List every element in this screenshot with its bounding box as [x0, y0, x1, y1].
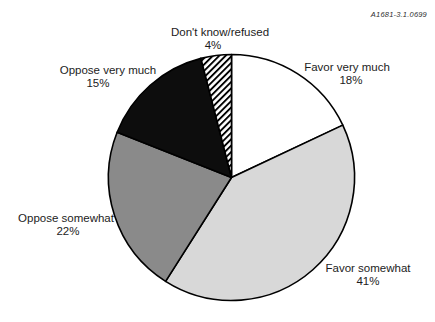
label-dont-know-refused: Don't know/refused 4%: [171, 26, 269, 52]
label-favor-very-much: Favor very much 18%: [304, 61, 390, 87]
label-oppose-very-much: Oppose very much 15%: [60, 64, 157, 90]
pie-slices-group: [109, 55, 355, 301]
slice-label-text: Favor very much: [304, 61, 390, 74]
pie-chart-figure: A1681-3.1.0699 Don't know/refused 4% Fav…: [0, 0, 435, 322]
label-favor-somewhat: Favor somewhat 41%: [325, 262, 410, 288]
slice-label-text: Oppose somewhat: [18, 212, 114, 225]
label-oppose-somewhat: Oppose somewhat 22%: [18, 212, 114, 238]
slice-label-pct: 41%: [325, 275, 410, 288]
slice-label-text: Favor somewhat: [325, 262, 410, 275]
slice-label-pct: 18%: [308, 74, 394, 87]
slice-label-pct: 22%: [20, 225, 116, 238]
slice-label-pct: 15%: [50, 77, 147, 90]
slice-label-text: Oppose very much: [60, 64, 157, 77]
slice-label-pct: 4%: [164, 39, 262, 52]
slice-label-text: Don't know/refused: [171, 26, 269, 39]
